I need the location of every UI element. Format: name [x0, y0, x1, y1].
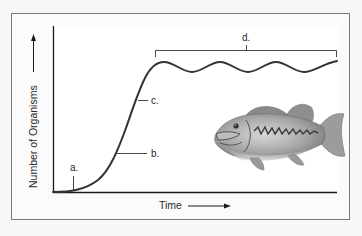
callout-b-label: b. [151, 148, 159, 159]
up-arrow-icon [31, 34, 36, 41]
fish-eye-highlight [235, 125, 237, 127]
fish-eye [233, 123, 238, 128]
x-axis-label-group: Time [159, 199, 231, 211]
callout-a-label: a. [70, 162, 78, 173]
callout-d-label: d. [242, 32, 250, 43]
right-arrow-icon [224, 204, 231, 209]
y-axis-label: Number of Organisms [27, 85, 39, 188]
y-axis-label-group: Number of Organisms [27, 34, 39, 188]
x-axis-label: Time [159, 199, 182, 211]
population-growth-diagram: Number of Organisms Time a. b. c. d. [0, 0, 362, 236]
callout-c-label: c. [151, 95, 159, 106]
